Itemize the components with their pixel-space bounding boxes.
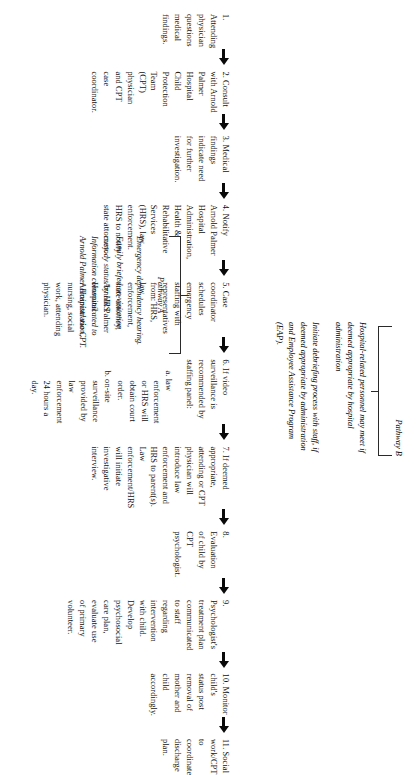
flow-step-6-subitem-a: a. law enforcement or HRS will obtain co… [113,370,174,423]
flow-arrow-3 [218,182,230,205]
flow-step-6-subitem-b: b. on-site surveillance provided by law … [28,370,113,423]
flow-step-7-text: 7. If deemed appropriate, attending or C… [88,446,231,508]
flow-arrow-8 [218,577,230,600]
flow-arrow-7 [218,508,230,531]
process-flow: 1. Attending physician questions medical… [81,14,231,714]
flow-arrow-5 [218,336,230,359]
flow-step-8-text: 8. Evaluation of child by CPT psychologi… [171,531,231,577]
pathway-b-stem [371,391,379,392]
flow-step-9-text: 9. Psychologist's treatment plan communi… [64,600,231,651]
flow-step-6-text: 6. If video surveillance is recommended … [183,359,231,423]
pathway-b-bracket [378,326,392,456]
pathway-a-stem [180,295,189,296]
flow-arrow-9 [218,651,230,674]
flow-step-2-text: 2. Consult with Arnold Palmer Hospital C… [88,71,231,112]
pathway-a-label: Pathway A [154,236,166,354]
pathway-b-notes: Hospital-related personnel may meet if d… [273,322,368,472]
flow-arrow-10 [218,716,230,739]
flow-step-8: 8. Evaluation of child by CPT psychologi… [171,531,231,577]
flow-arrow-6 [218,423,230,446]
pathway-a-note-2: Family briefed on visitation custody sta… [76,236,125,354]
flow-step-6-subitems: a. law enforcement or HRS will obtain co… [28,370,174,423]
flow-step-11: 11. Social work/CPT to coordinate discha… [159,739,231,775]
flow-step-1: 1. Attending physician questions medical… [159,14,231,48]
flow-step-1-text: 1. Attending physician questions medical… [159,14,231,48]
pathway-a-note-1: Emergency dependency hearing. [133,236,145,354]
flow-step-3-text: 3. Medical findings indicate need for fu… [171,136,231,182]
flow-arrow-1 [218,48,230,71]
pathway-a-group: Pathway A Emergency dependency hearing. … [76,236,181,354]
flow-step-2: 2. Consult with Arnold Palmer Hospital C… [88,71,231,112]
flow-step-10-text: 10. Monitor child's status post removal … [148,674,231,716]
flow-arrow-2 [218,113,230,136]
flow-arrow-4 [218,259,230,282]
pathway-b-label: Pathway B [394,322,403,472]
pathway-b-note-1: Hospital-related personnel may meet if d… [331,322,368,462]
flow-step-11-text: 11. Social work/CPT to coordinate discha… [159,739,231,775]
flow-step-10: 10. Monitor child's status post removal … [148,674,231,716]
pathway-b-group: Pathway B Hospital-related personnel may… [273,322,403,472]
pathway-b-note-2: Initiate debriefing process with staff, … [273,322,322,462]
flow-step-3: 3. Medical findings indicate need for fu… [171,136,231,182]
flow-step-7: 7. If deemed appropriate, attending or C… [88,446,231,508]
pathway-a-bracket [169,236,181,354]
flow-step-9: 9. Psychologist's treatment plan communi… [64,600,231,651]
flow-step-6: 6. If video surveillance is recommended … [28,359,231,423]
